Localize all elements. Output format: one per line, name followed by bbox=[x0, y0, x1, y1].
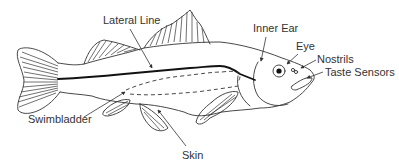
label-lateral-line: Lateral Line bbox=[103, 14, 161, 26]
skin-arrow bbox=[158, 110, 186, 146]
label-swimbladder: Swimbladder bbox=[28, 113, 92, 125]
swimbladder bbox=[126, 71, 240, 90]
label-inner-ear: Inner Ear bbox=[253, 22, 298, 34]
lateral-line bbox=[58, 66, 255, 80]
nostrils bbox=[291, 68, 297, 73]
fish-body bbox=[58, 42, 314, 116]
caudal-fin bbox=[17, 48, 60, 114]
pectoral-fin bbox=[196, 91, 238, 124]
fish-anatomy-diagram bbox=[0, 0, 399, 167]
label-skin: Skin bbox=[182, 149, 203, 161]
taste-sensors-arrow bbox=[307, 72, 323, 78]
inner-ear-arrow bbox=[261, 37, 266, 61]
eye bbox=[273, 65, 285, 77]
soft-dorsal-fin bbox=[84, 40, 140, 64]
lateral-line-arrow bbox=[130, 29, 152, 68]
label-eye: Eye bbox=[296, 40, 315, 52]
pelvic-fin bbox=[103, 99, 130, 116]
nostrils-arrow bbox=[301, 60, 316, 68]
label-nostrils: Nostrils bbox=[317, 53, 354, 65]
eye-arrow bbox=[287, 54, 298, 64]
label-taste-sensors: Taste Sensors bbox=[325, 66, 395, 78]
